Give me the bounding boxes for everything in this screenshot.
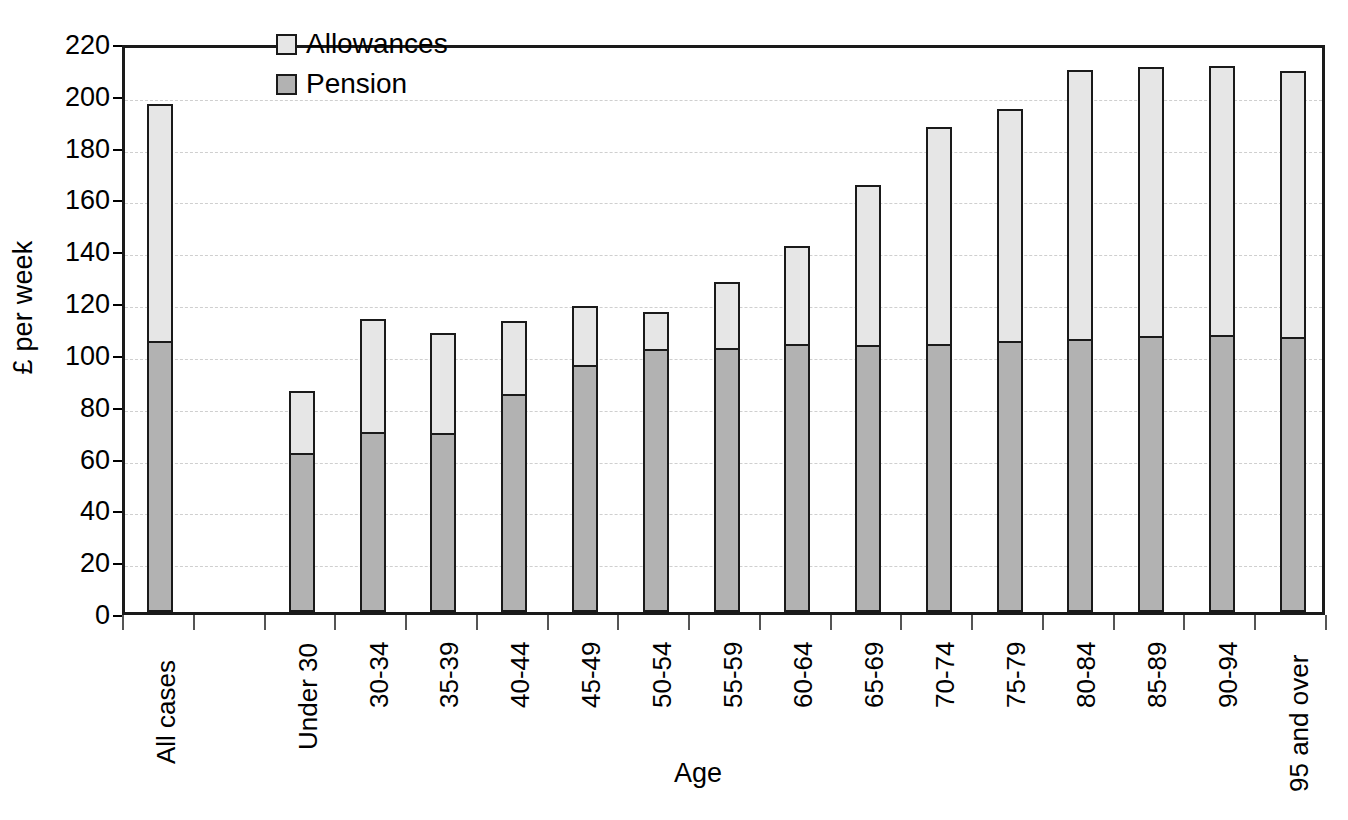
x-axis-title-text: Age bbox=[674, 758, 722, 788]
x-axis-tick-label-text: All cases bbox=[153, 660, 179, 764]
bar-segment-pension[interactable] bbox=[714, 348, 740, 612]
bar-group[interactable] bbox=[643, 42, 669, 612]
y-axis-tick-mark bbox=[113, 304, 122, 306]
x-axis-tick-mark bbox=[334, 615, 336, 630]
bar-group[interactable] bbox=[997, 42, 1023, 612]
legend-swatch-pension bbox=[276, 74, 297, 95]
bar-segment-pension[interactable] bbox=[926, 344, 952, 612]
bar-segment-pension[interactable] bbox=[997, 341, 1023, 612]
bar-segment-pension[interactable] bbox=[360, 432, 386, 612]
bar-segment-allowances[interactable] bbox=[643, 312, 669, 351]
x-axis-tick-mark bbox=[688, 615, 690, 630]
bar-segment-pension[interactable] bbox=[572, 365, 598, 612]
y-axis-tick-label: 200 bbox=[65, 83, 110, 110]
x-axis-tick-label-text: 75-79 bbox=[1003, 642, 1029, 709]
bar-segment-allowances[interactable] bbox=[147, 104, 173, 344]
bar-segment-allowances[interactable] bbox=[926, 127, 952, 346]
bar-segment-allowances[interactable] bbox=[1067, 70, 1093, 341]
bar-segment-allowances[interactable] bbox=[501, 321, 527, 396]
y-axis-tick-label: 20 bbox=[80, 550, 110, 577]
y-axis-tick-mark bbox=[113, 356, 122, 358]
bar-segment-pension[interactable] bbox=[643, 349, 669, 612]
bar-group[interactable] bbox=[1280, 42, 1306, 612]
y-axis-title: £ per week bbox=[0, 0, 46, 614]
bar-segment-pension[interactable] bbox=[501, 394, 527, 612]
bar-group[interactable] bbox=[1209, 42, 1235, 612]
bar-segment-pension[interactable] bbox=[1067, 339, 1093, 612]
y-axis-tick-mark bbox=[113, 200, 122, 202]
bar-segment-pension[interactable] bbox=[430, 433, 456, 612]
x-axis-tick-label-text: 55-59 bbox=[720, 642, 746, 709]
x-axis-tick-label-text: 35-39 bbox=[436, 642, 462, 709]
x-axis-title: Age bbox=[0, 758, 1348, 789]
bar-segment-allowances[interactable] bbox=[1209, 66, 1235, 337]
y-axis-tick-mark bbox=[113, 460, 122, 462]
bar-segment-allowances[interactable] bbox=[360, 319, 386, 434]
legend-item[interactable]: Allowances bbox=[276, 26, 536, 62]
bar-segment-pension[interactable] bbox=[784, 344, 810, 612]
x-axis-tick-label-text: 70-74 bbox=[932, 642, 958, 709]
legend-label: Pension bbox=[306, 70, 407, 98]
y-axis-tick-mark bbox=[113, 615, 122, 617]
x-axis-tick-mark bbox=[193, 615, 195, 630]
x-axis-tick-label-text: 45-49 bbox=[578, 642, 604, 709]
bar-group[interactable] bbox=[430, 42, 456, 612]
stacked-bar-chart: £ per week 02040608010012014016018020022… bbox=[0, 0, 1348, 820]
bar-group[interactable] bbox=[784, 42, 810, 612]
y-axis-tick-mark bbox=[113, 563, 122, 565]
bar-segment-pension[interactable] bbox=[1280, 337, 1306, 612]
x-axis-tick-mark bbox=[1183, 615, 1185, 630]
y-axis-tick-mark bbox=[113, 252, 122, 254]
bar-segment-allowances[interactable] bbox=[430, 333, 456, 435]
bar-group[interactable] bbox=[926, 42, 952, 612]
bar-segment-pension[interactable] bbox=[1138, 336, 1164, 612]
bar-group[interactable] bbox=[360, 42, 386, 612]
x-axis-tick-label-text: 40-44 bbox=[507, 642, 533, 709]
y-axis-tick-labels: 020406080100120140160180200220 bbox=[44, 0, 122, 660]
bar-segment-allowances[interactable] bbox=[714, 282, 740, 349]
x-axis-tick-mark bbox=[1325, 615, 1327, 630]
legend-item[interactable]: Pension bbox=[276, 66, 536, 102]
x-axis-tick-mark bbox=[971, 615, 973, 630]
bar-group[interactable] bbox=[855, 42, 881, 612]
x-axis-tick-mark bbox=[1113, 615, 1115, 630]
bars-layer bbox=[125, 48, 1322, 612]
bar-segment-pension[interactable] bbox=[1209, 335, 1235, 612]
y-axis-tick-label: 180 bbox=[65, 135, 110, 162]
y-axis-tick-label: 40 bbox=[80, 498, 110, 525]
bar-group[interactable] bbox=[714, 42, 740, 612]
x-axis-tick-mark bbox=[547, 615, 549, 630]
x-axis-tick-labels: All casesUnder 3030-3435-3940-4445-4950-… bbox=[122, 630, 1325, 820]
chart-legend: AllowancesPension bbox=[276, 26, 536, 106]
x-axis-tick-mark bbox=[759, 615, 761, 630]
bar-segment-allowances[interactable] bbox=[572, 306, 598, 367]
bar-segment-allowances[interactable] bbox=[784, 246, 810, 346]
bar-group[interactable] bbox=[572, 42, 598, 612]
bar-segment-pension[interactable] bbox=[147, 341, 173, 612]
y-axis-tick-label: 0 bbox=[95, 602, 110, 629]
bar-group[interactable] bbox=[1138, 42, 1164, 612]
x-axis-tick-label-text: 90-94 bbox=[1215, 642, 1241, 709]
bar-group[interactable] bbox=[501, 42, 527, 612]
bar-segment-allowances[interactable] bbox=[997, 109, 1023, 343]
bar-segment-allowances[interactable] bbox=[289, 391, 315, 454]
bar-segment-pension[interactable] bbox=[855, 345, 881, 612]
legend-swatch-allowances bbox=[276, 34, 297, 55]
bar-segment-allowances[interactable] bbox=[1280, 71, 1306, 339]
bar-segment-allowances[interactable] bbox=[1138, 67, 1164, 338]
bar-group[interactable] bbox=[1067, 42, 1093, 612]
y-axis-tick-mark bbox=[113, 97, 122, 99]
bar-segment-allowances[interactable] bbox=[855, 185, 881, 347]
bar-group[interactable] bbox=[147, 42, 173, 612]
y-axis-tick-label: 160 bbox=[65, 187, 110, 214]
x-axis-tick-mark bbox=[476, 615, 478, 630]
bar-group[interactable] bbox=[289, 42, 315, 612]
x-axis-tick-mark bbox=[900, 615, 902, 630]
x-axis-tick-mark bbox=[617, 615, 619, 630]
bar-segment-pension[interactable] bbox=[289, 453, 315, 612]
x-axis-tick-mark bbox=[264, 615, 266, 630]
y-axis-tick-mark bbox=[113, 45, 122, 47]
x-axis-tick-mark bbox=[122, 615, 124, 630]
y-axis-tick-label: 100 bbox=[65, 342, 110, 369]
y-axis-tick-label: 220 bbox=[65, 32, 110, 59]
